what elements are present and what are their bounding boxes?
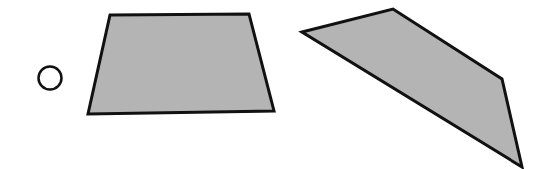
trapezoid-shape — [88, 14, 274, 114]
figure-canvas — [0, 0, 554, 169]
irregular-quadrilateral-shape — [302, 9, 522, 167]
option-circle-icon[interactable] — [39, 67, 62, 90]
shapes-diagram — [0, 0, 554, 169]
